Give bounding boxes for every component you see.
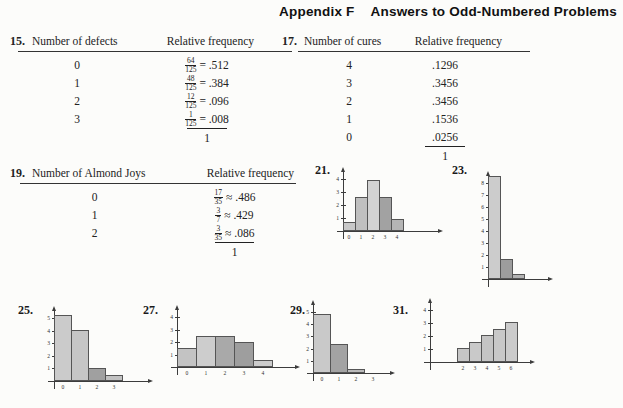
fraction: 1125: [185, 111, 196, 128]
x-tick-label: 1: [334, 376, 344, 382]
x-tick-label: 3: [368, 376, 378, 382]
bar: [71, 330, 89, 381]
table-header: Number of defects Relative frequency: [32, 34, 292, 49]
y-tick-label: 2: [163, 339, 173, 345]
frequency-text: = .512: [199, 59, 229, 71]
x-axis-arrow-icon: [438, 229, 443, 233]
table-problem-19: 19. Number of Almond Joys Relative frequ…: [10, 166, 300, 260]
bar: [234, 342, 254, 367]
y-axis-arrow-icon: [486, 171, 490, 176]
column-header-frequency: Relative frequency: [207, 166, 300, 181]
problem-number: 17.: [282, 34, 297, 49]
x-tick-label: 0: [58, 384, 68, 390]
x-tick-label: 3: [109, 384, 119, 390]
histogram-23: 23.12345678: [450, 161, 580, 293]
total-spacer: [32, 242, 157, 260]
x-axis: [482, 279, 548, 280]
y-tick-label: 4: [299, 321, 309, 327]
y-tick-label: 7: [474, 192, 484, 198]
y-tick: [175, 330, 180, 331]
y-tick-label: 4: [474, 228, 484, 234]
y-tick-label: 2: [299, 345, 309, 351]
histogram-31: 31.123423456: [391, 301, 583, 407]
bar: [505, 322, 518, 362]
chart-number-label: 25.: [18, 303, 33, 318]
y-tick-label: 2: [329, 202, 339, 208]
table-row: 212125= .096: [32, 92, 292, 110]
table-row: 4.1296: [304, 56, 530, 74]
frequency-text: = .384: [199, 77, 229, 89]
count-value: 4: [304, 56, 394, 74]
table-header: Number of Almond Joys Relative frequency: [32, 166, 300, 181]
table-row: 064125= .512: [32, 56, 292, 74]
frequency-value: 335≈ .086: [157, 224, 300, 242]
count-value: 0: [32, 188, 157, 206]
y-tick-label: 3: [329, 189, 339, 195]
count-value: 3: [32, 110, 122, 128]
count-value: 1: [32, 74, 122, 92]
frequency-value: 37≈ .429: [157, 206, 300, 224]
count-value: 0: [304, 128, 394, 146]
total-cell: 1: [157, 242, 300, 260]
bar: [253, 360, 273, 367]
y-tick-label: 2: [40, 353, 50, 359]
y-tick: [341, 218, 346, 219]
chart-number-label: 27.: [143, 303, 158, 318]
bar: [391, 219, 404, 231]
table-row: 2335≈ .086: [32, 224, 300, 242]
fraction-denominator: 125: [185, 120, 196, 128]
table-row: 3.3456: [304, 74, 530, 92]
count-value: 2: [304, 92, 394, 110]
y-tick: [341, 192, 346, 193]
y-tick-label: 4: [329, 176, 339, 182]
total-value: 1: [215, 242, 255, 260]
y-tick-label: 4: [40, 327, 50, 333]
count-value: 1: [304, 110, 394, 128]
header-rule: [18, 51, 292, 52]
header-rule: [298, 51, 530, 52]
page-header: Appendix FAnswers to Odd-Numbered Proble…: [279, 4, 617, 19]
x-axis: [307, 373, 390, 374]
y-tick-label: 5: [299, 309, 309, 315]
x-axis-arrow-icon: [548, 277, 553, 281]
x-tick-label: 2: [92, 384, 102, 390]
chart-number-label: 21.: [315, 163, 330, 178]
table-total-row: 1: [32, 128, 292, 146]
x-tick-label: 0: [344, 234, 354, 240]
count-value: 3: [304, 74, 394, 92]
fraction-denominator: 7: [215, 216, 221, 224]
column-header-count: Number of defects: [32, 34, 118, 49]
x-tick-label: 2: [220, 370, 230, 376]
x-axis-arrow-icon: [530, 360, 535, 364]
x-tick-label: 6: [506, 365, 516, 371]
frequency-value: .1536: [394, 110, 530, 128]
problem-number: 19.: [10, 166, 25, 181]
bar: [512, 274, 525, 279]
y-tick-label: 1: [299, 358, 309, 364]
frequency-text: ≈ .486: [226, 191, 255, 203]
fraction: 64125: [185, 57, 196, 74]
x-tick-label: 0: [317, 376, 327, 382]
table-row: 1.1536: [304, 110, 530, 128]
x-tick-label: 4: [392, 234, 402, 240]
y-axis-arrow-icon: [311, 300, 315, 305]
y-tick-label: 2: [474, 252, 484, 258]
frequency-text: ≈ .086: [225, 227, 254, 239]
bar: [313, 314, 331, 373]
x-tick-label: 3: [239, 370, 249, 376]
y-axis-arrow-icon: [175, 305, 179, 310]
x-axis: [424, 362, 530, 363]
count-value: 2: [32, 224, 157, 242]
y-tick-label: 1: [416, 346, 426, 352]
chart-number-label: 31.: [393, 303, 408, 318]
x-tick-label: 1: [201, 370, 211, 376]
frequency-value: .3456: [394, 92, 530, 110]
bar: [88, 368, 106, 381]
x-tick-label: 2: [458, 365, 468, 371]
y-tick-label: 5: [40, 315, 50, 321]
y-tick-label: 8: [474, 180, 484, 186]
x-axis: [48, 381, 148, 382]
y-tick: [428, 323, 433, 324]
x-tick-label: 0: [182, 370, 192, 376]
x-tick-label: 3: [380, 234, 390, 240]
